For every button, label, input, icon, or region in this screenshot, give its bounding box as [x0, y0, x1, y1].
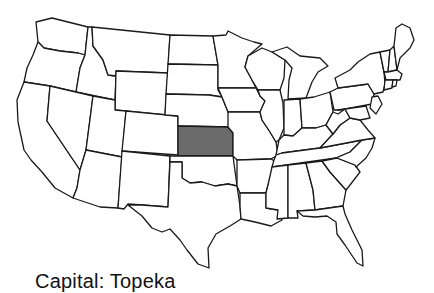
- state-kansas: [178, 126, 233, 156]
- state-massachusetts: [384, 70, 402, 80]
- state-rhode-island: [392, 80, 397, 87]
- state-pennsylvania: [330, 84, 374, 110]
- state-maine: [394, 24, 414, 70]
- state-new-jersey: [370, 96, 382, 114]
- capital-caption: Capital: Topeka: [35, 270, 176, 293]
- state-wyoming: [115, 71, 168, 115]
- state-florida: [297, 206, 363, 266]
- state-north-dakota: [168, 35, 218, 65]
- state-new-mexico: [118, 151, 170, 209]
- state-south-dakota: [166, 64, 222, 97]
- state-colorado: [122, 111, 178, 155]
